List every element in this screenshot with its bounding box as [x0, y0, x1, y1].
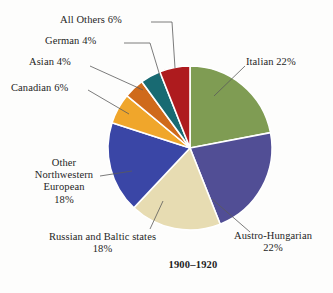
slice-label-german: German 4%: [45, 35, 96, 47]
leader-line-german: [124, 43, 160, 76]
slice-label-other-nw-line2: Northwestern: [18, 169, 110, 181]
slice-label-other-nw-line3: European: [18, 181, 110, 193]
slice-label-austro-line2: 22%: [218, 242, 328, 254]
pie-chart-figure: All Others 6% German 4% Asian 4% Canadia…: [0, 0, 333, 293]
slice-label-russian-line1: Russian and Baltic states: [30, 231, 175, 243]
chart-title: 1900–1920: [133, 259, 253, 270]
slice-label-russian-line2: 18%: [30, 243, 175, 255]
slice-label-other-nw-line1: Other: [18, 157, 110, 169]
slice-label-austro-line1: Austro-Hungarian: [218, 230, 328, 242]
leader-line-all-others: [151, 22, 175, 68]
slice-label-other-nw-line4: 18%: [18, 194, 110, 206]
slice-label-other-northwestern-european: Other Northwestern European 18%: [18, 157, 110, 206]
slice-label-italian: Italian 22%: [246, 56, 296, 68]
slice-label-austro-hungarian: Austro-Hungarian 22%: [218, 230, 328, 254]
slice-label-russian-and-baltic-states: Russian and Baltic states 18%: [30, 231, 175, 255]
pie-slice-group: [108, 66, 272, 230]
slice-label-all-others: All Others 6%: [60, 14, 122, 26]
leader-line-asian: [90, 66, 143, 90]
slice-label-asian: Asian 4%: [29, 56, 71, 68]
slice-label-canadian: Canadian 6%: [11, 82, 68, 94]
